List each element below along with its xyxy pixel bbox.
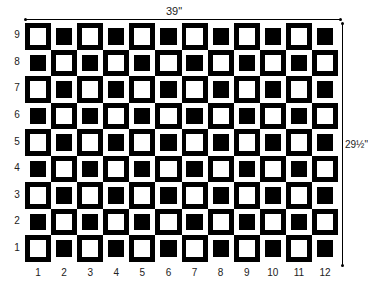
- inner-square: [82, 81, 98, 97]
- inner-square: [265, 134, 281, 150]
- inner-square: [30, 161, 46, 177]
- grid-cell: [182, 235, 208, 262]
- grid-cell: [312, 50, 338, 77]
- inner-square: [213, 81, 229, 97]
- inner-square: [134, 55, 150, 71]
- inner-square: [317, 161, 333, 177]
- grid-cell: [260, 76, 286, 103]
- grid-cell: [129, 129, 155, 156]
- inner-square: [108, 187, 124, 203]
- grid-cell: [51, 182, 77, 209]
- inner-square: [108, 81, 124, 97]
- grid-cell: [208, 182, 234, 209]
- inner-square: [82, 161, 98, 177]
- inner-square: [213, 214, 229, 230]
- checkerboard-grid: [25, 23, 338, 262]
- grid-cell: [260, 103, 286, 130]
- inner-square: [213, 187, 229, 203]
- grid-cell: [51, 50, 77, 77]
- grid-cell: [260, 129, 286, 156]
- inner-square: [108, 108, 124, 124]
- inner-square: [30, 55, 46, 71]
- grid-cell: [260, 209, 286, 236]
- grid-cell: [286, 209, 312, 236]
- inner-square: [265, 240, 281, 256]
- grid-cell: [286, 76, 312, 103]
- inner-square: [82, 28, 98, 44]
- inner-square: [265, 161, 281, 177]
- inner-square: [239, 187, 255, 203]
- grid-cell: [51, 209, 77, 236]
- grid-cell: [129, 76, 155, 103]
- grid-cell: [208, 50, 234, 77]
- grid-cell: [129, 50, 155, 77]
- grid-cell: [25, 50, 51, 77]
- height-dimension-end-dot: [341, 264, 344, 267]
- grid-cell: [129, 182, 155, 209]
- row-label: 7: [12, 82, 22, 93]
- inner-square: [108, 134, 124, 150]
- grid-cell: [129, 156, 155, 183]
- grid-cell: [155, 209, 181, 236]
- grid-cell: [234, 129, 260, 156]
- inner-square: [213, 161, 229, 177]
- inner-square: [56, 187, 72, 203]
- row-label: 6: [12, 109, 22, 120]
- inner-square: [82, 55, 98, 71]
- column-label: 9: [234, 267, 260, 278]
- inner-square: [108, 161, 124, 177]
- grid-cell: [234, 156, 260, 183]
- inner-square: [56, 161, 72, 177]
- grid-cell: [103, 103, 129, 130]
- grid-cell: [312, 182, 338, 209]
- grid-cell: [182, 156, 208, 183]
- inner-square: [265, 28, 281, 44]
- inner-square: [213, 55, 229, 71]
- grid-cell: [25, 209, 51, 236]
- column-label: 1: [25, 267, 51, 278]
- grid-cell: [182, 23, 208, 50]
- inner-square: [239, 134, 255, 150]
- inner-square: [160, 134, 176, 150]
- inner-square: [317, 81, 333, 97]
- height-dimension-label: 29½": [345, 139, 368, 150]
- height-dimension-line: [342, 23, 343, 266]
- grid-cell: [234, 23, 260, 50]
- grid-cell: [260, 50, 286, 77]
- grid-cell: [286, 103, 312, 130]
- grid-cell: [182, 50, 208, 77]
- inner-square: [82, 187, 98, 203]
- grid-cell: [25, 76, 51, 103]
- inner-square: [56, 214, 72, 230]
- grid-cell: [234, 103, 260, 130]
- grid-cell: [155, 50, 181, 77]
- grid-cell: [103, 209, 129, 236]
- height-dimension-start-dot: [341, 22, 344, 25]
- grid-cell: [208, 23, 234, 50]
- grid-cell: [25, 129, 51, 156]
- inner-square: [30, 108, 46, 124]
- grid-cell: [312, 76, 338, 103]
- inner-square: [134, 240, 150, 256]
- grid-cell: [182, 209, 208, 236]
- width-dimension-line: [25, 19, 340, 20]
- inner-square: [82, 214, 98, 230]
- inner-square: [265, 55, 281, 71]
- width-dimension-label: 39": [166, 5, 182, 17]
- grid-cell: [129, 23, 155, 50]
- grid-cell: [77, 103, 103, 130]
- row-label: 2: [12, 215, 22, 226]
- inner-square: [160, 214, 176, 230]
- inner-square: [291, 240, 307, 256]
- inner-square: [82, 240, 98, 256]
- inner-square: [213, 134, 229, 150]
- inner-square: [213, 28, 229, 44]
- grid-cell: [234, 209, 260, 236]
- column-label: 10: [260, 267, 286, 278]
- inner-square: [317, 240, 333, 256]
- grid-cell: [129, 235, 155, 262]
- row-label: 5: [12, 136, 22, 147]
- grid-cell: [155, 23, 181, 50]
- inner-square: [186, 55, 202, 71]
- inner-square: [160, 81, 176, 97]
